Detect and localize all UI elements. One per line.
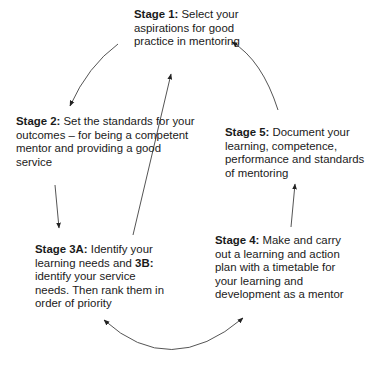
stage-4-node: Stage 4: Make and carry out a learning a…	[215, 234, 355, 302]
stage-2-label: Stage 2:	[16, 115, 60, 127]
stage-3a-label: Stage 3A:	[35, 243, 88, 255]
stage-3b-text: identify your service needs. Then rank t…	[35, 270, 164, 309]
stage-2-node: Stage 2: Set the standards for your outc…	[16, 115, 196, 169]
stage-3-node: Stage 3A: Identify your learning needs a…	[35, 243, 165, 311]
stage-1-label: Stage 1:	[134, 8, 178, 20]
stage-1-node: Stage 1: Select your aspirations for goo…	[134, 8, 264, 49]
arrow-stage4-to-stage5	[291, 184, 295, 227]
arrow-stage5-to-stage1	[232, 42, 278, 110]
arrow-stage1-to-stage2	[70, 44, 118, 106]
stage-3b-label: 3B:	[135, 257, 153, 269]
arrow-stage2-to-stage3	[55, 185, 59, 228]
stage-4-label: Stage 4:	[215, 234, 259, 246]
arrow-stage3-to-stage4	[104, 318, 243, 350]
stage-5-node: Stage 5: Document your learning, compete…	[225, 126, 365, 180]
stage-5-label: Stage 5:	[225, 126, 269, 138]
